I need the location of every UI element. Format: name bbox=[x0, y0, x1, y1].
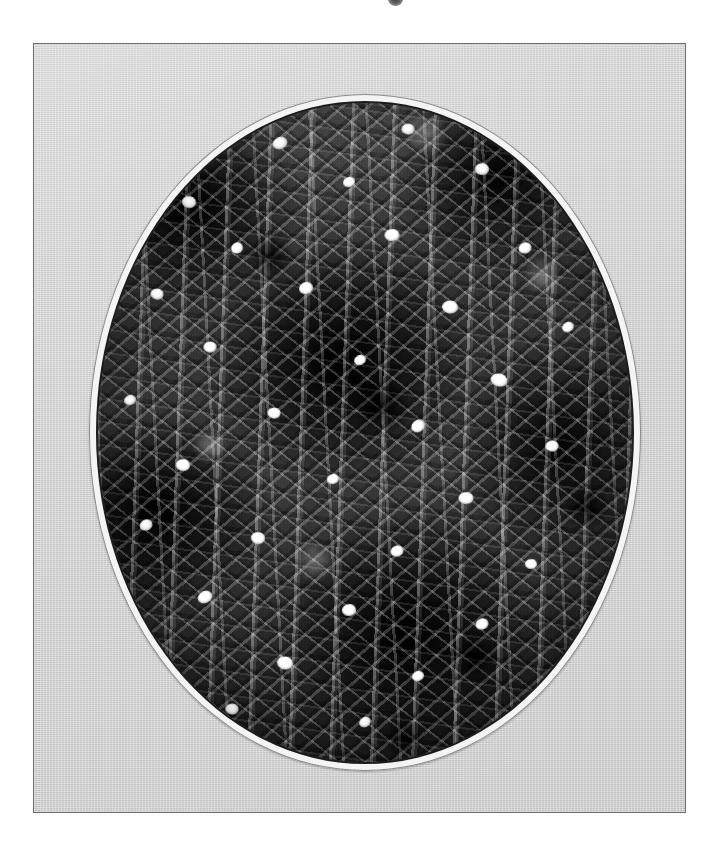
photographic-plate-frame bbox=[33, 43, 686, 813]
oval-vignette bbox=[89, 94, 641, 771]
scan-page bbox=[0, 0, 718, 855]
plant-photograph bbox=[98, 103, 632, 762]
photo-edge-vignette bbox=[98, 103, 632, 762]
scan-artifact-icon bbox=[388, 0, 403, 6]
